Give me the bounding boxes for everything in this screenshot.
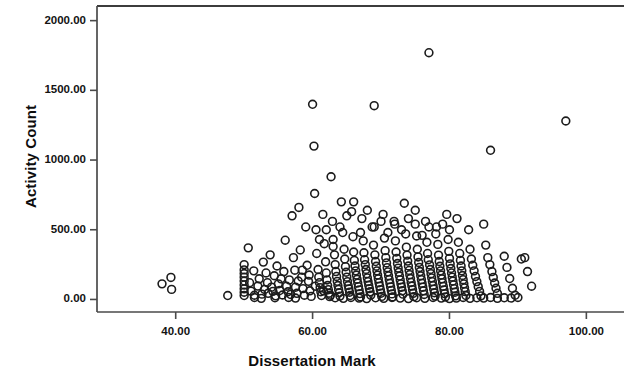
data-point <box>350 198 358 206</box>
data-point <box>562 117 570 125</box>
data-point <box>524 268 532 276</box>
data-point <box>405 215 413 223</box>
data-point <box>327 173 335 181</box>
data-point <box>312 226 320 234</box>
data-point <box>480 220 488 228</box>
data-point <box>340 245 348 253</box>
data-point <box>411 220 419 228</box>
data-point <box>413 245 421 253</box>
data-point <box>357 229 365 237</box>
data-point <box>244 244 252 252</box>
data-point <box>392 237 400 245</box>
data-point <box>331 251 339 259</box>
data-point <box>443 211 451 219</box>
data-point <box>290 254 298 262</box>
data-point <box>296 246 304 254</box>
data-point <box>500 252 508 260</box>
data-point <box>313 250 321 258</box>
data-point <box>487 146 495 154</box>
data-point <box>411 206 419 214</box>
data-point <box>363 206 371 214</box>
data-point <box>466 245 474 253</box>
data-point <box>341 255 349 263</box>
data-point <box>259 258 267 266</box>
data-point <box>310 142 318 150</box>
data-point <box>434 240 442 248</box>
data-points <box>158 49 570 303</box>
data-point <box>329 217 337 225</box>
data-point <box>503 263 511 271</box>
data-point <box>402 243 410 251</box>
data-point <box>314 266 322 274</box>
data-point <box>266 251 274 259</box>
data-point <box>250 267 258 275</box>
data-point <box>465 226 473 234</box>
data-point <box>322 258 330 266</box>
scatter-chart-figure: Activity Count Dissertation Mark 0.00500… <box>0 0 624 381</box>
data-point <box>370 102 378 110</box>
data-point <box>311 190 319 198</box>
data-point <box>322 226 330 234</box>
data-point <box>291 266 299 274</box>
data-point <box>400 199 408 207</box>
data-point <box>303 261 311 269</box>
data-point <box>444 236 452 244</box>
data-point <box>255 275 263 283</box>
data-point <box>453 215 461 223</box>
axes-lines <box>97 6 624 312</box>
data-point <box>528 282 536 290</box>
data-point <box>309 100 317 108</box>
data-point <box>425 49 433 57</box>
data-point <box>359 237 367 245</box>
data-point <box>446 226 454 234</box>
data-point <box>288 212 296 220</box>
data-point <box>350 248 358 256</box>
data-point <box>224 292 232 300</box>
data-point <box>281 236 289 244</box>
data-point <box>167 274 175 282</box>
data-point <box>482 241 490 249</box>
data-point <box>273 262 281 270</box>
data-point <box>349 233 357 241</box>
data-point <box>418 231 426 239</box>
data-point <box>302 223 310 231</box>
data-point <box>370 241 378 249</box>
data-point <box>377 217 385 225</box>
data-point <box>454 238 462 246</box>
data-point <box>262 269 270 277</box>
data-point <box>295 204 303 212</box>
data-point <box>358 215 366 223</box>
data-point <box>319 211 327 219</box>
data-point <box>506 275 514 283</box>
data-point <box>168 286 176 294</box>
data-point <box>423 238 431 246</box>
data-point <box>158 280 166 288</box>
data-point <box>337 198 345 206</box>
plot-area <box>0 0 624 381</box>
data-point <box>280 268 288 276</box>
